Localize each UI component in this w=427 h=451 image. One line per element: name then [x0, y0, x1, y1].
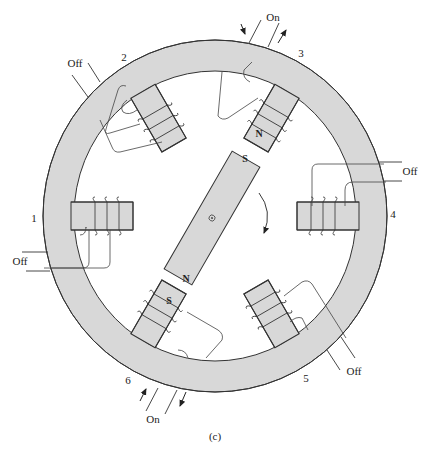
pole-6-current-out-arrow — [180, 392, 186, 406]
rotor-top-label: S — [242, 153, 248, 164]
pole-4-number: 4 — [390, 208, 396, 220]
pole-2-state: Off — [67, 57, 82, 69]
pole-1-state: Off — [12, 255, 27, 267]
pole-5-state: Off — [346, 365, 361, 377]
pole-3-current-out-arrow — [278, 30, 286, 43]
pole-1-number: 1 — [31, 212, 37, 224]
pole-6-number: 6 — [125, 374, 131, 386]
pole-3-state: On — [266, 11, 280, 23]
pole-6-current-in-arrow — [140, 389, 146, 401]
pole-5-number: 5 — [303, 372, 309, 384]
pole-6-state: On — [146, 413, 160, 425]
rotor-bottom-label: N — [182, 273, 190, 284]
pole-4-state: Off — [402, 165, 417, 177]
pole-3-number: 3 — [298, 47, 304, 59]
pole-1 — [71, 197, 133, 235]
pole-3-current-in-arrow — [241, 24, 245, 34]
figure-caption: (c) — [209, 430, 222, 443]
pole-6-magnet-label: S — [166, 295, 172, 306]
pole-2-number: 2 — [121, 51, 127, 63]
pole-4 — [297, 197, 359, 235]
stepper-motor-diagram: S N N S 1 2 3 4 5 6 Off Off On Off Off O… — [0, 0, 427, 451]
pole-3-magnet-label: N — [255, 128, 263, 139]
